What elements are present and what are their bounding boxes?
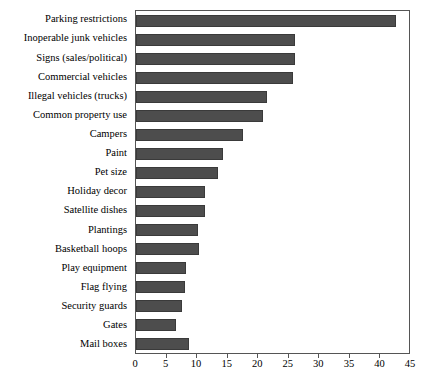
x-tick-label: 25 [283,358,294,371]
x-tick-label: 10 [191,358,202,371]
bar-row [136,11,409,30]
x-tick-label: 45 [405,358,416,371]
bar-row [136,258,409,277]
x-tick-label: 15 [221,358,232,371]
bar-row [136,30,409,49]
category-label: Parking restrictions [0,10,131,29]
x-tick-label: 5 [163,358,168,371]
bar [136,300,182,312]
bar-row [136,315,409,334]
x-tick-label: 40 [374,358,385,371]
x-tick-label: 30 [313,358,324,371]
bar [136,129,243,141]
category-label: Mail boxes [0,335,131,354]
category-label: Illegal vehicles (trucks) [0,86,131,105]
bar-row [136,125,409,144]
category-axis-labels: Parking restrictionsInoperable junk vehi… [0,10,131,354]
category-label: Satellite dishes [0,201,131,220]
bar [136,224,198,236]
x-tick-label: 0 [132,358,137,371]
bar-row [136,201,409,220]
bar [136,281,185,293]
bar [136,243,199,255]
bar [136,15,396,27]
bar-chart: Parking restrictionsInoperable junk vehi… [0,0,428,386]
x-axis-tick-labels: 051015202530354045 [0,358,428,378]
bar-row [136,277,409,296]
bar-row [136,87,409,106]
category-label: Commercial vehicles [0,67,131,86]
category-label: Campers [0,125,131,144]
bar [136,186,205,198]
bar [136,262,186,274]
category-label: Holiday decor [0,182,131,201]
bar [136,91,267,103]
category-label: Basketball hoops [0,239,131,258]
category-label: Common property use [0,106,131,125]
category-label: Pet size [0,163,131,182]
bar [136,110,263,122]
category-label: Play equipment [0,258,131,277]
bar-row [136,106,409,125]
bar-row [136,296,409,315]
bar [136,34,295,46]
bar [136,53,295,65]
bar-row [136,68,409,87]
category-label: Flag flying [0,278,131,297]
x-tick-label: 35 [344,358,355,371]
bar-row [136,182,409,201]
bar-row [136,239,409,258]
category-label: Inoperable junk vehicles [0,29,131,48]
bar-row [136,163,409,182]
bar [136,205,205,217]
category-label: Signs (sales/political) [0,48,131,67]
bar-row [136,220,409,239]
bar-series [136,11,409,353]
plot-area [135,10,410,354]
category-label: Paint [0,144,131,163]
category-label: Security guards [0,297,131,316]
bar [136,319,176,331]
bar-row [136,334,409,353]
x-tick-label: 20 [252,358,263,371]
bar [136,338,189,350]
category-label: Gates [0,316,131,335]
bar [136,167,218,179]
bar [136,148,223,160]
bar-row [136,144,409,163]
category-label: Plantings [0,220,131,239]
bar [136,72,293,84]
bar-row [136,49,409,68]
